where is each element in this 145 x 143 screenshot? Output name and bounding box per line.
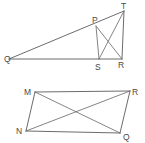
vertex-label-M: M <box>24 87 31 97</box>
segment-PS <box>96 26 99 59</box>
vertex-label-Q-top: Q <box>4 54 11 64</box>
segment-MR <box>35 91 130 92</box>
vertex-label-S: S <box>95 62 101 72</box>
figure-top-triangle-qtr: Q P T S R <box>4 1 126 72</box>
segment-QN <box>26 131 120 133</box>
segment-QT <box>9 11 124 59</box>
geometry-figure-sheet: Q P T S R M R Q N <box>0 0 145 143</box>
vertex-label-N: N <box>16 126 22 136</box>
diagonal-MQ <box>35 92 120 133</box>
vertex-label-P: P <box>92 15 98 25</box>
geometry-canvas: Q P T S R M R Q N <box>0 0 145 143</box>
segment-TR <box>122 11 124 59</box>
vertex-label-R-bottom: R <box>132 87 138 97</box>
segment-PR <box>96 26 122 59</box>
segment-RQ <box>120 91 130 133</box>
vertex-label-T: T <box>121 1 126 11</box>
vertex-label-Q-bottom: Q <box>123 132 130 142</box>
vertex-label-R-top: R <box>118 60 124 70</box>
diagonal-NR <box>26 91 130 131</box>
figure-bottom-parallelogram-mrqn: M R Q N <box>16 87 138 142</box>
segment-NM <box>26 92 35 131</box>
